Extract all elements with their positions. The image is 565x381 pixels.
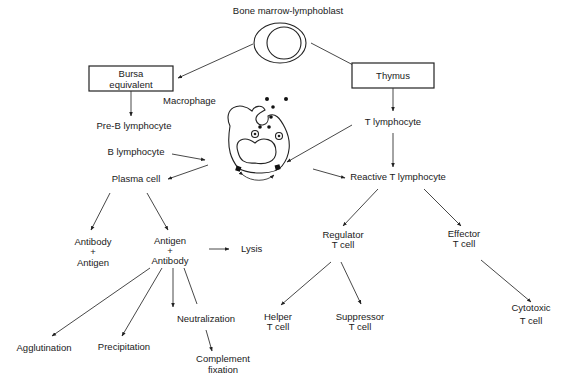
complement-label-1: Complement (196, 353, 250, 364)
lymphoblast-cell-icon (254, 23, 306, 63)
line-complement (184, 268, 197, 304)
arrow-reactive-regulator (343, 189, 378, 226)
bursa-equivalent-box: Bursa equivalent (89, 66, 173, 91)
lysis-label: Lysis (241, 243, 263, 254)
bursa-label-1: Bursa (119, 68, 145, 79)
arrow-blymph-macrophage (172, 154, 205, 160)
arrow-macrophage-plasma (168, 165, 208, 179)
arrow-effector-cytotoxic (481, 260, 531, 302)
plasma-cell-label: Plasma cell (112, 173, 161, 184)
antibody-antigen-plus: + (90, 246, 96, 257)
suppressor-label-2: T cell (349, 321, 372, 332)
precipitation-label: Precipitation (98, 341, 150, 352)
antibody-antigen-2: Antigen (77, 257, 109, 268)
neutralization-label: Neutralization (177, 313, 235, 324)
arrow-tlymph-macrophage (287, 125, 352, 162)
arrow-macrophage-reactive (313, 169, 345, 178)
macrophage-label: Macrophage (163, 95, 216, 106)
arrow-plasma-agab (147, 193, 168, 230)
arrow-to-bursa (178, 44, 253, 78)
regulator-label-2: T cell (332, 239, 355, 250)
pre-b-lymphocyte-label: Pre-B lymphocyte (97, 120, 172, 131)
arrow-precipitation (122, 268, 162, 336)
arrow-agglutination (52, 268, 150, 336)
bone-marrow-label: Bone marrow-lymphoblast (233, 5, 344, 16)
helper-label-2: T cell (267, 321, 290, 332)
immune-system-diagram: Bone marrow-lymphoblast Bursa equivalent… (0, 0, 565, 381)
macrophage-cell-icon (228, 97, 289, 180)
arrow-complement (206, 330, 212, 351)
complement-label-2: fixation (208, 364, 238, 375)
cytotoxic-label-2: T cell (520, 315, 543, 326)
arrow-plasma-abag (91, 193, 110, 230)
antigen-antibody-2: Antibody (152, 255, 189, 266)
bursa-label-2: equivalent (109, 79, 153, 90)
thymus-label: Thymus (376, 70, 410, 81)
t-lymphocyte-label: T lymphocyte (365, 116, 421, 127)
reactive-t-lymphocyte-label: Reactive T lymphocyte (350, 171, 446, 182)
arrow-regulator-suppressor (341, 262, 361, 304)
agglutination-label: Agglutination (17, 342, 72, 353)
thymus-box: Thymus (352, 63, 434, 88)
cytotoxic-label-1: Cytotoxic (511, 302, 550, 313)
b-lymphocyte-label: B lymphocyte (107, 146, 164, 157)
arrow-regulator-helper (281, 262, 331, 305)
effector-label-2: T cell (453, 238, 476, 249)
arrow-reactive-effector (424, 189, 461, 226)
